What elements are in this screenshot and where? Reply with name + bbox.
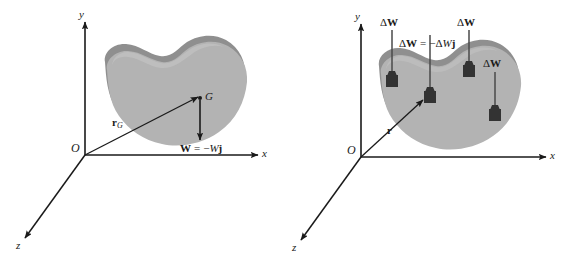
x-axis-label: x [550,150,555,161]
x-axis-label: x [262,148,267,159]
weight-element-definition-label: ΔW=−ΔWj [399,38,455,49]
weight-symbol: W [387,16,398,28]
diagram-panel-left: y x z O G rG W=−Wj [0,0,284,267]
position-vector-label: rG [112,117,123,130]
weight-vector-scalar: W [209,142,218,154]
weight-element-4-block [489,109,501,121]
weight-symbol-lhs: W [406,37,417,49]
z-axis [25,155,85,238]
position-vector-label: r [387,125,392,136]
weight-element-1-label: ΔW [380,17,398,28]
z-axis-label: z [292,242,296,253]
diagram-panel-right: y x z O r ΔW ΔW=−ΔWj ΔW ΔW [284,0,568,267]
position-vector-subscript: G [117,121,123,130]
origin-label: O [71,142,80,154]
left-diagram-svg [0,0,284,267]
weight-symbol: W [464,16,475,28]
position-vector-symbol: r [387,124,392,136]
origin-label: O [347,144,356,156]
z-axis-label: z [16,240,20,251]
y-axis-label: y [355,11,360,22]
weight-element-2-block [424,91,436,103]
weight-element-1-block [386,75,398,87]
y-axis-label: y [79,9,84,20]
weight-vector-equals: = [191,142,203,154]
weight-element-3-block [463,65,475,77]
weight-symbol: W [490,57,501,69]
center-of-gravity-label: G [205,91,213,102]
equals-symbol: = [417,37,429,49]
weight-resultant-figure: y x z O G rG W=−Wj [0,0,568,267]
weight-vector-label: W=−Wj [180,143,222,154]
z-axis [301,157,361,240]
delta-symbol-rhs: Δ [436,37,443,49]
weight-element-3-label: ΔW [457,17,475,28]
weight-vector-unit-j: j [219,142,223,154]
center-of-gravity-point [198,96,202,100]
unit-vector-j: j [452,37,456,49]
weight-vector-symbol: W [180,142,191,154]
weight-element-4-label: ΔW [483,58,501,69]
weight-scalar: W [443,37,452,49]
